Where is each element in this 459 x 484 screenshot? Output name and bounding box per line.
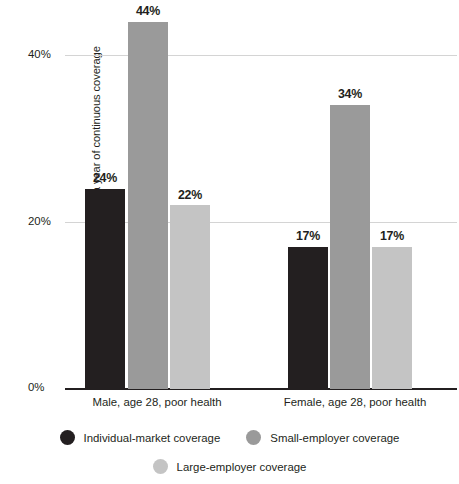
bar-male-individual-market[interactable] — [85, 189, 125, 389]
legend-item-large-employer[interactable]: Large-employer coverage — [153, 459, 307, 474]
legend-label-large-employer: Large-employer coverage — [177, 461, 307, 473]
legend-label-individual-market: Individual-market coverage — [84, 432, 221, 444]
legend-swatch-circle-icon — [60, 430, 75, 445]
y-tick-label-20: 20% — [28, 215, 64, 227]
y-tick-label-40: 40% — [28, 48, 64, 60]
legend-swatch-circle-icon — [153, 459, 168, 474]
legend-row-2: Large-employer coverage — [0, 459, 459, 474]
legend-row-1: Individual-market coverage Small-employe… — [0, 430, 459, 445]
legend: Individual-market coverage Small-employe… — [0, 430, 459, 474]
legend-label-small-employer: Small-employer coverage — [270, 432, 399, 444]
legend-item-individual-market[interactable]: Individual-market coverage — [60, 430, 221, 445]
bar-label-male-individual-market: 24% — [77, 171, 133, 185]
bar-label-female-large-employer: 17% — [364, 229, 420, 243]
category-label-female: Female, age 28, poor health — [260, 396, 450, 408]
bar-female-small-employer[interactable] — [330, 105, 370, 389]
legend-swatch-circle-icon — [246, 430, 261, 445]
bar-female-large-employer[interactable] — [372, 247, 412, 389]
bar-label-female-small-employer: 34% — [322, 87, 378, 101]
legend-item-small-employer[interactable]: Small-employer coverage — [246, 430, 399, 445]
bar-label-female-individual-market: 17% — [280, 229, 336, 243]
y-tick-label-0: 0% — [28, 381, 64, 393]
bar-male-small-employer[interactable] — [128, 22, 168, 389]
bar-label-male-large-employer: 22% — [162, 188, 218, 202]
bar-female-individual-market[interactable] — [288, 247, 328, 389]
bar-label-male-small-employer: 44% — [120, 4, 176, 18]
bar-male-large-employer[interactable] — [170, 205, 210, 389]
category-label-male: Male, age 28, poor health — [67, 396, 247, 408]
bar-chart: Likelihood of being uninsured after a ye… — [0, 0, 459, 484]
plot-area: 24% 44% 22% 17% 34% 17% — [65, 0, 457, 390]
gridline-40 — [65, 55, 457, 56]
